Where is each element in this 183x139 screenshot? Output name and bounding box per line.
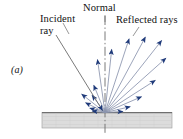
reflecting-surface: [42, 113, 172, 129]
incident-label-leader: [63, 23, 69, 34]
reflected-rays-group: [82, 37, 166, 112]
reflected-ray: [105, 97, 142, 113]
incident-ray-label-line2: ray: [40, 25, 54, 36]
reflected-ray: [105, 37, 145, 112]
normal-label: Normal: [83, 2, 116, 13]
incident-ray-label: Incident: [40, 13, 75, 24]
reflected-ray: [105, 80, 155, 112]
incident-ray-line: [56, 35, 103, 111]
reflected-ray: [105, 41, 162, 113]
surface-slab: [42, 113, 172, 129]
panel-label: (a): [11, 64, 23, 75]
reflected-label-leader: [133, 27, 139, 36]
reflected-rays-label: Reflected rays: [116, 14, 178, 25]
reflection-diagram-figure: (a) Incident ray Normal Reflected rays: [0, 0, 183, 139]
incident-ray: [56, 35, 103, 111]
